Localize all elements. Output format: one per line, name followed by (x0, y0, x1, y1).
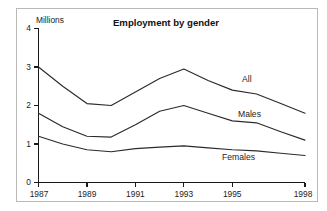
x-tick-label-1991: 1991 (126, 189, 145, 199)
x-tick-label-1998: 1998 (294, 189, 313, 199)
series-line-females (39, 136, 306, 155)
y-axis-title: Millions (36, 15, 64, 25)
y-tick-label-0: 0 (26, 177, 31, 187)
x-tick-label-1989: 1989 (78, 189, 97, 199)
y-tick-label-3: 3 (26, 62, 31, 72)
x-tick-label-1987: 1987 (30, 189, 49, 199)
chart-figure: 0 1 2 3 4 1987 1989 1991 1993 1995 1998 … (0, 0, 327, 211)
y-tick-label-1: 1 (26, 139, 31, 149)
y-tick-label-2: 2 (26, 100, 31, 110)
series-label-females: Females (222, 152, 255, 162)
series-label-males: Males (238, 109, 261, 119)
chart-title: Employment by gender (113, 17, 219, 28)
x-tick-label-1995: 1995 (223, 189, 242, 199)
employment-line-chart: 0 1 2 3 4 1987 1989 1991 1993 1995 1998 … (0, 0, 327, 211)
y-tick-label-4: 4 (26, 23, 31, 33)
x-tick-label-1993: 1993 (174, 189, 193, 199)
series-line-all (39, 67, 306, 113)
series-line-males (39, 106, 306, 141)
series-label-all: All (242, 74, 252, 84)
